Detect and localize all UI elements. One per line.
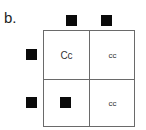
top-allele-1-square-icon: [66, 15, 77, 26]
cell-r0-c1: cc: [90, 31, 135, 79]
left-allele-2-square-icon: [26, 97, 37, 108]
left-allele-1-square-icon: [26, 49, 37, 60]
figure-label: b.: [4, 9, 17, 26]
cell-r1-c0: [44, 80, 89, 126]
cell-r0-c0: Cc: [44, 31, 89, 79]
cell-square-icon: [60, 97, 71, 108]
cell-r1-c1: cc: [90, 80, 135, 126]
top-allele-2-square-icon: [101, 15, 112, 26]
punnett-grid: Cc cc cc: [43, 30, 135, 127]
